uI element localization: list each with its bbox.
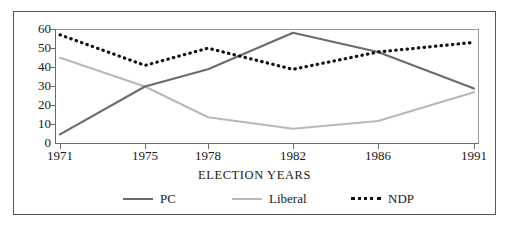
y-tick-label: 20 <box>20 98 51 112</box>
legend-swatch-ndp-icon <box>351 194 381 204</box>
x-tick-label: 1978 <box>183 148 233 164</box>
y-tick-label: 50 <box>20 41 51 55</box>
series-layer <box>55 29 479 144</box>
legend-swatch-liberal-icon <box>232 194 262 204</box>
legend-item-ndp: NDP <box>351 188 414 210</box>
legend-item-liberal: Liberal <box>232 188 307 210</box>
x-tick-label: 1971 <box>35 148 85 164</box>
x-tick-label: 1986 <box>353 148 403 164</box>
legend-label-liberal: Liberal <box>269 191 307 207</box>
x-tick-label: 1975 <box>120 148 170 164</box>
legend-label-ndp: NDP <box>388 191 414 207</box>
x-tick-label: 1982 <box>268 148 318 164</box>
legend-label-pc: PC <box>160 191 176 207</box>
y-tick-label: 60 <box>20 22 51 36</box>
y-tick-label: 10 <box>20 117 51 131</box>
chart-figure: 60 50 40 30 20 10 0 1971 1975 1978 1982 … <box>0 0 509 234</box>
x-tick-label: 1991 <box>449 148 499 164</box>
x-axis-labels: 1971 1975 1978 1982 1986 1991 <box>0 148 509 168</box>
legend-item-pc: PC <box>123 188 176 210</box>
x-axis-title: ELECTION YEARS <box>0 168 509 183</box>
chart-legend: PC Liberal NDP <box>0 188 509 210</box>
series-line-liberal <box>60 58 474 129</box>
y-tick-label: 40 <box>20 60 51 74</box>
y-tick-label: 30 <box>20 79 51 93</box>
y-axis-labels: 60 50 40 30 20 10 0 <box>20 22 51 152</box>
legend-swatch-pc-icon <box>123 194 153 204</box>
